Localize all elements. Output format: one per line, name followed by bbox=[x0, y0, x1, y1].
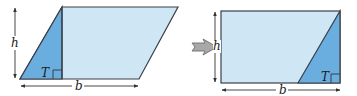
right-figure-rectangle: T h b bbox=[213, 11, 340, 96]
height-label: h bbox=[213, 39, 221, 53]
base-label: b bbox=[75, 79, 83, 93]
base-label: b bbox=[279, 83, 287, 96]
triangle-label: T bbox=[41, 66, 50, 80]
triangle-label: T bbox=[321, 70, 330, 84]
parallelogram-to-rectangle-diagram: T h b T h b bbox=[0, 0, 357, 96]
left-figure-parallelogram: T h b bbox=[9, 7, 178, 93]
height-label: h bbox=[11, 36, 19, 50]
